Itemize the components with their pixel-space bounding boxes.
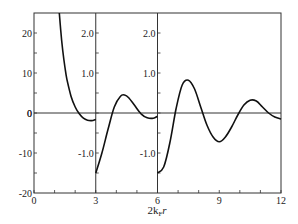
y-tick-label: 10	[22, 68, 32, 79]
y-tick-label: -1.0	[78, 148, 94, 159]
y-tick-label: 0	[27, 108, 32, 119]
tick-labels: 20100-10-2002.01.0-1.02.01.0-1.0036912	[19, 28, 286, 207]
y-tick-label: -1.0	[140, 148, 156, 159]
x-tick-label: 0	[32, 195, 37, 206]
y-tick-label: -20	[19, 188, 32, 199]
y-tick-label: 1.0	[143, 68, 156, 79]
y-tick-label: 1.0	[81, 68, 94, 79]
x-tick-label: 3	[93, 195, 98, 206]
x-tick-label: 12	[276, 195, 286, 206]
y-tick-label: 2.0	[81, 28, 94, 39]
x-axis-label: 2kFr	[147, 204, 167, 218]
x-tick-label: 9	[217, 195, 222, 206]
y-tick-label: 20	[22, 28, 32, 39]
chart: 20100-10-2002.01.0-1.02.01.0-1.0036912 2…	[0, 0, 298, 224]
y-tick-label: 2.0	[143, 28, 156, 39]
y-tick-label: -10	[19, 148, 32, 159]
data-curve-panel-2	[96, 95, 158, 173]
plot-frame	[34, 13, 281, 193]
data-curve-panel-3	[158, 80, 282, 173]
